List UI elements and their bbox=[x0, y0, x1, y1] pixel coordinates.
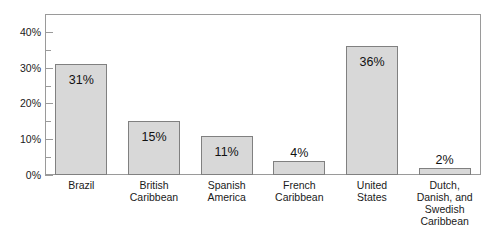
bar-value-label: 31% bbox=[56, 74, 106, 87]
x-axis-category-line: Brazil bbox=[45, 179, 118, 191]
x-axis-category-label: BritishCaribbean bbox=[118, 179, 191, 203]
bar: 36% bbox=[346, 46, 398, 175]
y-axis-tick-label: 40% bbox=[20, 27, 41, 38]
bar-value-label: 36% bbox=[347, 56, 397, 69]
x-axis-category-line: States bbox=[336, 191, 409, 203]
x-axis-category-line: Caribbean bbox=[118, 191, 191, 203]
x-axis-category-line: Caribbean bbox=[408, 215, 481, 227]
x-axis-category-line: Swedish bbox=[408, 203, 481, 215]
bar-chart: 0%10%20%30%40% 31%15%11%4%36%2% BrazilBr… bbox=[0, 0, 500, 245]
x-axis-category-line: Dutch, bbox=[408, 179, 481, 191]
bar-value-label: 4% bbox=[274, 147, 324, 160]
x-axis-category-line: America bbox=[190, 191, 263, 203]
x-axis-category-label: UnitedStates bbox=[336, 179, 409, 203]
x-axis-category-line: Spanish bbox=[190, 179, 263, 191]
bar: 2% bbox=[419, 168, 471, 175]
x-axis-category-line: United bbox=[336, 179, 409, 191]
x-axis-category-line: Danish, and bbox=[408, 191, 481, 203]
x-axis-category-label: Brazil bbox=[45, 179, 118, 191]
bar: 15% bbox=[128, 121, 180, 175]
y-axis: 0%10%20%30%40% bbox=[0, 14, 41, 175]
x-axis-category-line: British bbox=[118, 179, 191, 191]
x-axis-category-label: FrenchCaribbean bbox=[263, 179, 336, 203]
bar: 4% bbox=[273, 161, 325, 175]
x-axis-category-label: Dutch,Danish, andSwedishCaribbean bbox=[408, 179, 481, 227]
x-axis: BrazilBritishCaribbeanSpanishAmericaFren… bbox=[45, 179, 481, 241]
bar: 11% bbox=[201, 136, 253, 175]
bars-group: 31%15%11%4%36%2% bbox=[45, 14, 481, 175]
y-axis-tick-major bbox=[45, 175, 53, 176]
y-axis-tick-label: 0% bbox=[26, 170, 41, 181]
bar-value-label: 15% bbox=[129, 131, 179, 144]
bar: 31% bbox=[55, 64, 107, 175]
bar-value-label: 2% bbox=[420, 154, 470, 167]
x-axis-category-line: Caribbean bbox=[263, 191, 336, 203]
bar-value-label: 11% bbox=[202, 146, 252, 159]
y-axis-tick-label: 10% bbox=[20, 134, 41, 145]
x-axis-category-line: French bbox=[263, 179, 336, 191]
x-axis-category-label: SpanishAmerica bbox=[190, 179, 263, 203]
y-axis-tick-label: 30% bbox=[20, 62, 41, 73]
y-axis-tick-label: 20% bbox=[20, 98, 41, 109]
